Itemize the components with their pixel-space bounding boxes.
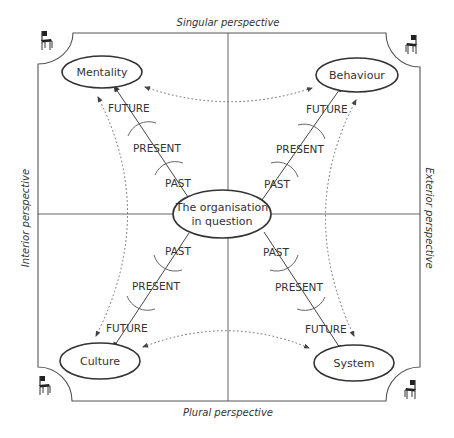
node-behaviour-label: Behaviour (329, 69, 385, 82)
label-past: PAST (264, 178, 291, 190)
label-future: FUTURE (305, 323, 347, 335)
perspective-right-label: Exterior perspective (424, 167, 435, 268)
label-future: FUTURE (306, 103, 348, 115)
chair-icon (41, 31, 52, 50)
label-future: FUTURE (106, 322, 148, 334)
node-culture-label: Culture (80, 355, 120, 368)
time-arc (298, 124, 325, 139)
center-label-line2: in question (191, 215, 252, 228)
time-arc (127, 296, 155, 310)
dotted-arrow-left (96, 97, 128, 336)
label-past: PAST (165, 177, 192, 189)
label-past: PAST (263, 246, 290, 258)
perspective-bottom-label: Plural perspective (183, 407, 273, 418)
perspective-top-label: Singular perspective (177, 17, 280, 28)
time-arc (271, 162, 298, 177)
node-center-organisation (173, 190, 271, 238)
node-system-label: System (333, 357, 374, 370)
chair-icon (405, 380, 416, 399)
dotted-arrow-bottom (143, 331, 309, 348)
organisation-perspectives-diagram: FUTURE PRESENT PAST FUTURE PRESENT PAST … (0, 0, 454, 438)
label-present: PRESENT (276, 143, 324, 155)
chair-icon (39, 376, 50, 395)
dotted-arrow-right (325, 100, 356, 336)
label-past: PAST (165, 245, 192, 257)
label-present: PRESENT (275, 281, 323, 293)
chair-icon (406, 35, 417, 54)
perspective-left-label: Interior perspective (20, 169, 31, 267)
node-mentality-label: Mentality (76, 66, 128, 79)
label-present: PRESENT (133, 142, 181, 154)
label-future: FUTURE (108, 102, 150, 114)
center-label-line1: The organisation (175, 201, 268, 214)
label-present: PRESENT (132, 280, 180, 292)
dotted-arrow-top (145, 87, 312, 102)
time-arc (154, 255, 182, 271)
